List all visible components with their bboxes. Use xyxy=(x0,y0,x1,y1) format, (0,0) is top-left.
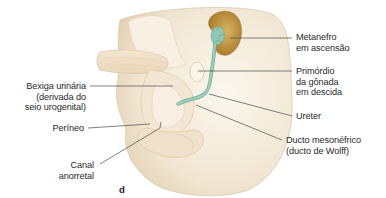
label-perineo: Períneo xyxy=(53,123,84,134)
label-primordio-gonada: Primórdio da gônada em descida xyxy=(296,66,342,98)
label-bexiga-line-3: seio urogenital) xyxy=(25,102,86,113)
label-metanefro: Metanefro em ascensão xyxy=(296,32,350,53)
gonad-primordium xyxy=(190,62,204,82)
label-ureter-line-1: Ureter xyxy=(296,111,321,122)
label-bexiga-line-1: Bexiga urinária xyxy=(25,81,86,92)
label-canal-anorretal: Canal anorretal xyxy=(59,160,94,181)
label-canal-line-2: anorretal xyxy=(59,171,94,182)
label-ureter: Ureter xyxy=(296,111,321,122)
label-ducto-line-2: (ducto de Wolff) xyxy=(286,146,361,157)
label-canal-line-1: Canal xyxy=(59,160,94,171)
label-primordio-line-3: em descida xyxy=(296,87,342,98)
label-ducto-mesonefrico: Ducto mesonéfrico (ducto de Wolff) xyxy=(286,135,361,156)
label-bexiga-urinaria: Bexiga urinária (derivada do seio urogen… xyxy=(25,81,86,113)
embryo-urogenital-diagram: Metanefro em ascensão Primórdio da gônad… xyxy=(0,0,386,198)
label-metanefro-line-2: em ascensão xyxy=(296,43,350,54)
label-perineo-line-1: Períneo xyxy=(53,123,84,134)
panel-letter: d xyxy=(119,184,125,195)
label-primordio-line-1: Primórdio xyxy=(296,66,342,77)
label-bexiga-line-2: (derivada do xyxy=(25,92,86,103)
label-metanefro-line-1: Metanefro xyxy=(296,32,350,43)
label-primordio-line-2: da gônada xyxy=(296,77,342,88)
label-ducto-line-1: Ducto mesonéfrico xyxy=(286,135,361,146)
